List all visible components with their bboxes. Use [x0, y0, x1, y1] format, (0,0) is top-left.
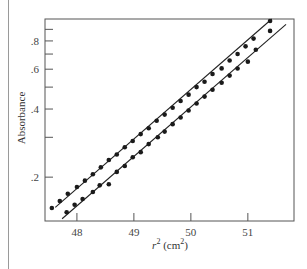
data-point — [97, 183, 102, 188]
y-tick-label: .8 — [31, 35, 40, 47]
data-point — [75, 185, 80, 190]
data-point — [178, 99, 183, 104]
y-tick-label: .2 — [31, 171, 39, 183]
data-point — [227, 58, 232, 63]
data-point — [91, 172, 96, 177]
y-axis-label: Absorbance — [15, 92, 27, 145]
data-point — [122, 145, 127, 150]
data-point — [268, 29, 273, 34]
data-point — [219, 66, 224, 71]
data-point — [72, 202, 77, 207]
data-point — [178, 115, 183, 120]
data-point — [107, 158, 112, 163]
series-lower — [62, 24, 286, 218]
x-axis-label: r2 (cm2) — [152, 237, 188, 252]
data-series — [50, 19, 286, 219]
data-point — [162, 129, 167, 134]
y-axis-ticks: .2.4.6.8 — [31, 29, 53, 183]
data-point — [114, 152, 119, 157]
data-point — [162, 112, 167, 117]
data-point — [138, 150, 143, 155]
data-point — [251, 36, 256, 41]
absorbance-vs-r2-chart: .2.4.6.8 48495051 Absorbance r2 (cm2) — [0, 0, 307, 269]
data-point — [268, 19, 273, 24]
data-point — [186, 108, 191, 113]
data-point — [235, 66, 240, 71]
fit-line — [62, 24, 286, 218]
data-point — [235, 52, 240, 57]
data-point — [58, 199, 63, 204]
data-point — [107, 182, 112, 187]
data-point — [170, 106, 175, 111]
data-point — [64, 210, 69, 215]
data-point — [194, 85, 199, 90]
x-tick-label: 50 — [185, 226, 197, 238]
x-tick-label: 49 — [128, 226, 140, 238]
data-point — [254, 47, 259, 52]
data-point — [210, 87, 215, 92]
data-point — [114, 170, 119, 175]
data-point — [194, 101, 199, 106]
y-tick-label: .6 — [31, 63, 40, 75]
data-point — [227, 73, 232, 78]
data-point — [65, 191, 70, 196]
data-point — [130, 139, 135, 144]
data-point — [138, 132, 143, 137]
data-point — [243, 44, 248, 49]
data-point — [146, 142, 151, 147]
data-point — [210, 72, 215, 77]
x-tick-label: 51 — [242, 226, 253, 238]
series-upper — [50, 19, 273, 211]
data-point — [99, 165, 104, 170]
data-point — [122, 164, 127, 169]
data-point — [219, 80, 224, 85]
y-tick-label: .4 — [31, 103, 40, 115]
data-point — [186, 92, 191, 97]
data-point — [170, 122, 175, 127]
data-point — [130, 155, 135, 160]
data-point — [246, 59, 251, 64]
data-point — [83, 178, 88, 183]
data-point — [202, 94, 207, 99]
data-point — [80, 197, 85, 202]
x-tick-label: 48 — [71, 226, 83, 238]
data-point — [202, 79, 207, 84]
data-point — [154, 118, 159, 123]
x-axis-ticks: 48495051 — [71, 213, 253, 238]
data-point — [50, 206, 55, 211]
data-point — [91, 190, 96, 195]
data-point — [156, 135, 161, 140]
data-point — [146, 126, 151, 131]
